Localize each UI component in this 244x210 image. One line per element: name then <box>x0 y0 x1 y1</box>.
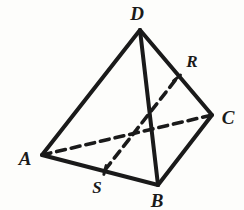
point-label-S: S <box>92 179 101 196</box>
edge-DC <box>140 30 212 115</box>
tetrahedron-drawing <box>0 0 244 210</box>
vertex-label-D: D <box>130 4 144 23</box>
vertex-label-B: B <box>151 191 164 210</box>
geometry-figure: D A B C R S <box>0 0 244 210</box>
vertex-label-A: A <box>19 149 32 168</box>
vertex-label-C: C <box>222 108 235 127</box>
point-label-R: R <box>186 53 197 70</box>
